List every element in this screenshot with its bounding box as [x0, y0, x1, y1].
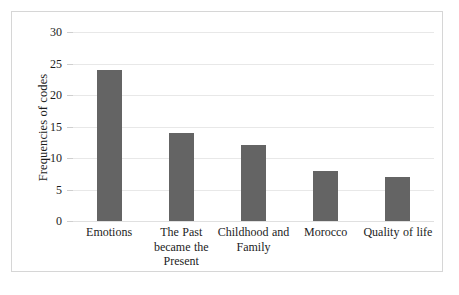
y-tick-label-30: 30 [50, 25, 62, 40]
y-tick-label-20: 20 [50, 88, 62, 103]
x-axis-category-labels: EmotionsThe Past became the PresentChild… [73, 225, 434, 283]
x-axis-label: Morocco [290, 225, 362, 240]
bar-series [73, 32, 434, 221]
plot-area: 051015202530 [73, 32, 434, 221]
tick-mark-0 [67, 221, 73, 222]
x-axis-label: Quality of life [362, 225, 434, 240]
gridline-0 [73, 221, 434, 222]
bar [241, 145, 266, 221]
chart-frame: Frequencies of codes 051015202530 Emotio… [11, 11, 443, 272]
y-axis-title: Frequencies of codes [36, 48, 51, 208]
x-axis-label: The Past became the Present [145, 225, 217, 269]
y-tick-label-5: 5 [56, 182, 62, 197]
bar [385, 177, 410, 221]
bar [169, 133, 194, 221]
y-tick-label-15: 15 [50, 119, 62, 134]
y-tick-label-25: 25 [50, 56, 62, 71]
bar [97, 70, 122, 221]
y-tick-label-10: 10 [50, 151, 62, 166]
bar [313, 171, 338, 221]
x-axis-label: Emotions [73, 225, 145, 240]
x-axis-label: Childhood and Family [217, 225, 289, 254]
y-tick-label-0: 0 [56, 214, 62, 229]
